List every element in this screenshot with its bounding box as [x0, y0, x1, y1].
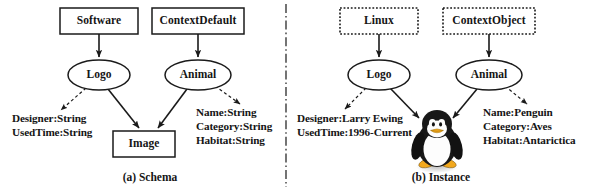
edge-logo-to-attributes [61, 88, 86, 110]
animal-attribute-name: Name:Penguin [483, 107, 553, 118]
panel-instance-caption: (b) Instance [412, 172, 470, 184]
logo-attribute-designer: Designer:Larry Ewing [297, 113, 403, 124]
animal-attribute-category: Category:Aves [483, 121, 552, 132]
edge-logo-to-attributes [345, 88, 366, 109]
diagram-canvas [0, 0, 597, 191]
contextobject-box-label: ContextObject [452, 15, 525, 27]
panel-schema-caption: (a) Schema [123, 172, 178, 184]
image-box-label: Image [128, 138, 159, 150]
logo-attribute-usedtime: UsedTime:1996-Current [297, 127, 412, 138]
logo-attribute-usedtime: UsedTime:String [12, 127, 92, 138]
animal-attribute-category: Category:String [196, 121, 272, 132]
logo-ellipse-label: Logo [87, 69, 112, 81]
edge-logo-to-image [108, 89, 139, 128]
logo-attribute-designer: Designer:String [12, 113, 86, 124]
figure-root: Software ContextDefault Image Logo Anima… [0, 0, 597, 191]
edge-animal-to-image [158, 89, 187, 128]
animal-attribute-name: Name:String [196, 107, 256, 118]
animal-ellipse-label: Animal [471, 69, 507, 81]
edge-animal-to-tux [453, 89, 477, 118]
logo-ellipse-label: Logo [367, 69, 392, 81]
linux-box-label: Linux [364, 15, 394, 27]
software-box-label: Software [77, 15, 122, 27]
contextdefault-box-label: ContextDefault [160, 15, 237, 27]
animal-attribute-habitat: Habitat:String [196, 135, 265, 146]
animal-ellipse-label: Animal [180, 69, 216, 81]
edge-animal-to-attributes [505, 86, 527, 104]
animal-attribute-habitat: Habitat:Antarictica [483, 135, 576, 146]
edge-animal-to-attributes [215, 86, 240, 104]
panel-instance [340, 8, 535, 173]
tux-penguin-image [409, 110, 465, 173]
